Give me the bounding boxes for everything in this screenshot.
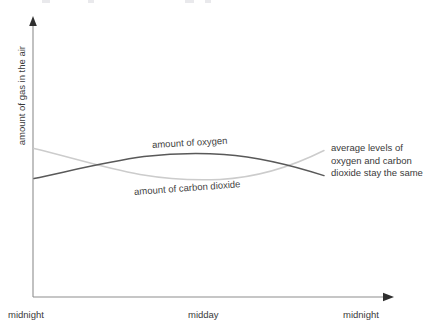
- x-tick-label-midnight-right: midnight: [343, 309, 379, 320]
- annotation-average-levels: average levels of oxygen and carbon diox…: [331, 142, 433, 180]
- x-axis-arrowhead: [383, 293, 394, 301]
- y-axis-arrowhead: [29, 16, 37, 26]
- oxygen-curve: [34, 153, 324, 178]
- y-axis-label: amount of gas in the air: [16, 31, 27, 161]
- x-tick-label-midnight-left: midnight: [8, 309, 44, 320]
- x-tick-label-midday: midday: [188, 309, 219, 320]
- gas-levels-line-chart: amount of gas in the air amount of oxyge…: [0, 0, 435, 336]
